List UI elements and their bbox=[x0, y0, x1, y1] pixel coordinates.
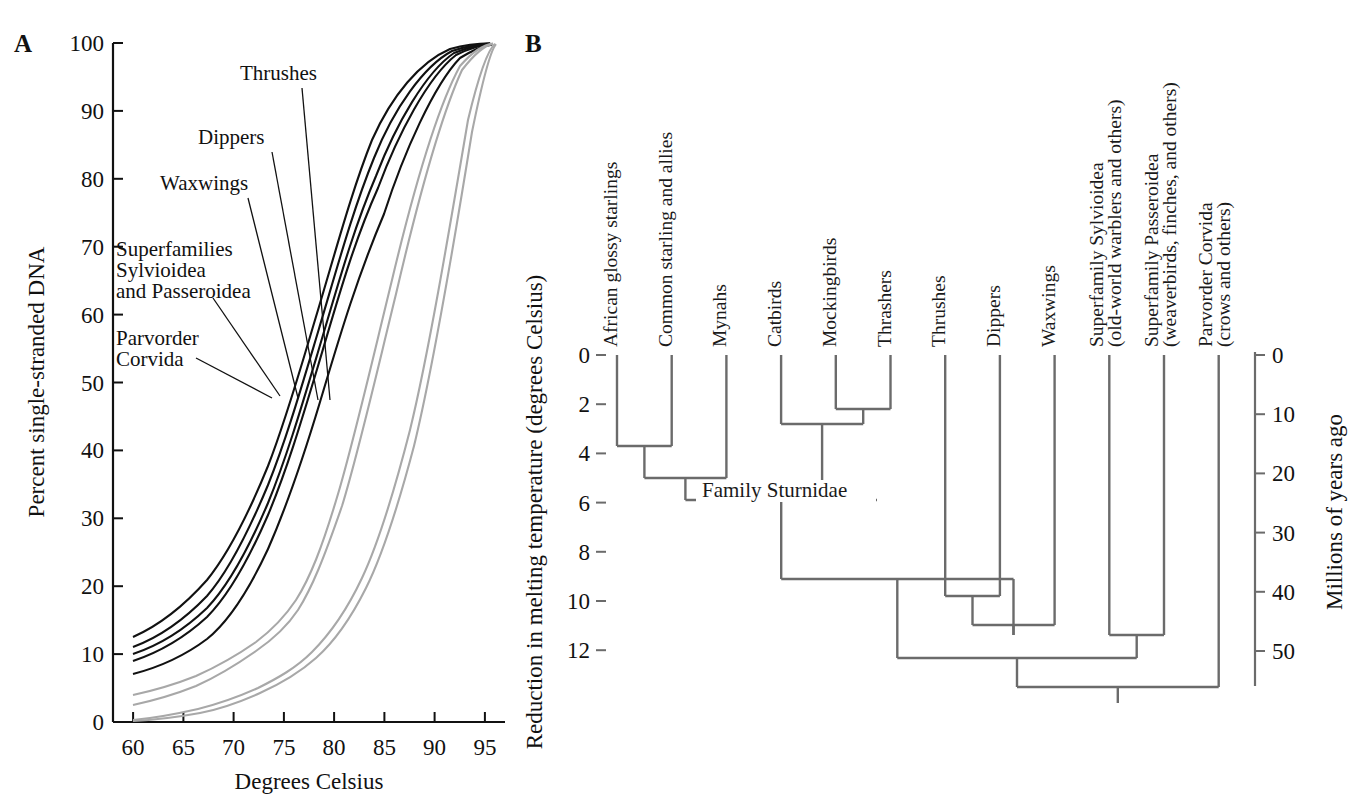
panel-b: B 0 2 4 6 8 10 12 Reductio bbox=[520, 0, 1361, 794]
tip-label-mockingbirds: Mockingbirds bbox=[819, 238, 840, 347]
x-tick-90: 90 bbox=[423, 735, 446, 760]
panel-a: A 0 10 20 3 bbox=[0, 0, 520, 794]
right-tick-30: 30 bbox=[1272, 521, 1295, 546]
panel-a-callout-labels: Thrushes Dippers Waxwings Superfamilies … bbox=[116, 61, 317, 371]
panel-b-right-axis: 0 10 20 30 40 50 Millions of years ago bbox=[1255, 343, 1347, 686]
left-tick-4: 4 bbox=[579, 441, 591, 466]
y-tick-30: 30 bbox=[81, 506, 104, 531]
x-tick-80: 80 bbox=[323, 735, 346, 760]
y-tick-20: 20 bbox=[81, 574, 104, 599]
callout-parvorder-line2: Corvida bbox=[116, 347, 184, 371]
left-tick-12: 12 bbox=[567, 638, 590, 663]
right-tick-50: 50 bbox=[1272, 639, 1295, 664]
y-tick-60: 60 bbox=[81, 303, 104, 328]
right-tick-40: 40 bbox=[1272, 580, 1295, 605]
tip-label-superfamily-passeroidea-line2: (weaverbirds, finches, and others) bbox=[1159, 82, 1181, 347]
x-tick-70: 70 bbox=[222, 735, 245, 760]
panel-a-y-axis-label: Percent single-stranded DNA bbox=[24, 246, 49, 517]
figure-root: A 0 10 20 3 bbox=[0, 0, 1361, 794]
panel-a-letter: A bbox=[14, 30, 32, 57]
panel-a-y-tick-labels: 0 10 20 30 40 50 60 70 80 90 100 bbox=[70, 31, 105, 735]
x-tick-95: 95 bbox=[473, 735, 496, 760]
y-tick-70: 70 bbox=[81, 235, 104, 260]
callout-waxwings: Waxwings bbox=[160, 171, 248, 195]
y-tick-50: 50 bbox=[81, 371, 104, 396]
callout-dippers: Dippers bbox=[198, 125, 265, 149]
right-tick-0: 0 bbox=[1272, 343, 1284, 368]
left-tick-10: 10 bbox=[567, 589, 590, 614]
tree-branches bbox=[617, 355, 1219, 703]
panel-b-right-axis-label: Millions of years ago bbox=[1322, 414, 1347, 610]
left-tick-2: 2 bbox=[579, 392, 591, 417]
tip-labels: African glossy starlings Common starling… bbox=[600, 82, 1235, 347]
panel-b-tree: B 0 2 4 6 8 10 12 Reductio bbox=[520, 0, 1361, 794]
right-tick-20: 20 bbox=[1272, 461, 1295, 486]
y-tick-90: 90 bbox=[81, 99, 104, 124]
panel-b-left-axis-label: Reduction in melting temperature (degree… bbox=[522, 275, 547, 750]
right-tick-10: 10 bbox=[1272, 402, 1295, 427]
y-tick-80: 80 bbox=[81, 167, 104, 192]
tip-label-african-glossy-starlings: African glossy starlings bbox=[600, 162, 621, 347]
callout-thrushes: Thrushes bbox=[240, 61, 317, 85]
callout-superfamilies-line3: and Passeroidea bbox=[116, 279, 251, 303]
panel-a-x-tick-labels: 60 65 70 75 80 85 90 95 bbox=[122, 735, 497, 760]
left-tick-0: 0 bbox=[579, 343, 591, 368]
y-tick-10: 10 bbox=[81, 642, 104, 667]
tip-label-mynahs: Mynahs bbox=[709, 284, 730, 347]
tip-label-thrashers: Thrashers bbox=[874, 270, 895, 347]
tip-label-catbirds: Catbirds bbox=[764, 281, 785, 347]
panel-b-left-axis: 0 2 4 6 8 10 12 Reduction in melting tem… bbox=[522, 275, 606, 750]
family-sturnidae-label: Family Sturnidae bbox=[702, 478, 847, 502]
tip-label-dippers: Dippers bbox=[983, 285, 1004, 347]
panel-b-letter: B bbox=[525, 30, 542, 57]
tip-label-common-starling-and-allies: Common starling and allies bbox=[655, 132, 676, 347]
left-tick-6: 6 bbox=[579, 491, 591, 516]
left-tick-8: 8 bbox=[579, 540, 591, 565]
x-tick-60: 60 bbox=[122, 735, 145, 760]
x-tick-65: 65 bbox=[172, 735, 195, 760]
panel-a-x-ticks bbox=[133, 712, 485, 722]
tip-label-waxwings: Waxwings bbox=[1038, 265, 1059, 347]
panel-a-plot: A 0 10 20 3 bbox=[0, 0, 520, 794]
y-tick-100: 100 bbox=[70, 31, 105, 56]
tip-label-superfamily-sylvioidea-line2: (old-world warblers and others) bbox=[1104, 100, 1126, 347]
x-tick-75: 75 bbox=[272, 735, 295, 760]
panel-a-y-ticks bbox=[113, 43, 123, 722]
panel-a-x-axis-label: Degrees Celsius bbox=[235, 769, 384, 794]
x-tick-85: 85 bbox=[373, 735, 396, 760]
tip-label-thrushes: Thrushes bbox=[928, 276, 949, 348]
y-tick-0: 0 bbox=[93, 710, 105, 735]
tip-label-parvorder-corvida-line2: (crows and others) bbox=[1213, 202, 1235, 347]
curve-parvorder-corvida bbox=[133, 45, 492, 674]
y-tick-40: 40 bbox=[81, 438, 104, 463]
